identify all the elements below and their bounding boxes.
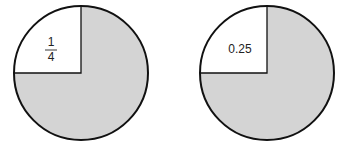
fraction-denominator: 4 — [48, 50, 55, 64]
decimal-circle: 0.25 — [200, 6, 334, 140]
fraction-numerator: 1 — [48, 35, 55, 49]
diagram-canvas: 1 4 0.25 — [0, 0, 347, 146]
decimal-label: 0.25 — [228, 42, 252, 56]
fraction-circle: 1 4 — [14, 6, 148, 140]
